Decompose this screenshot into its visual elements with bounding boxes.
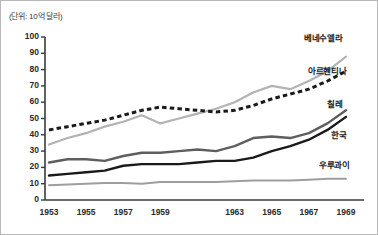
chart-container: (단위: 10억 달러) 베네수엘라아르헨티나칠레한국우루과이 01020304… xyxy=(0,0,378,235)
series-line-4 xyxy=(49,179,346,186)
x-tick-label: 1967 xyxy=(292,207,326,217)
x-tick-label: 1963 xyxy=(218,207,252,217)
y-tick-label: 10 xyxy=(13,178,39,188)
y-tick-label: 60 xyxy=(13,96,39,106)
y-tick-label: 90 xyxy=(13,47,39,57)
y-tick-label: 40 xyxy=(13,129,39,139)
y-tick-label: 30 xyxy=(13,145,39,155)
x-tick-label: 1969 xyxy=(329,207,363,217)
y-tick-label: 20 xyxy=(13,161,39,171)
y-tick-label: 50 xyxy=(13,113,39,123)
series-line-1 xyxy=(49,71,346,130)
y-tick-label: 70 xyxy=(13,80,39,90)
series-label-1: 아르헨티나 xyxy=(308,64,347,76)
series-line-2 xyxy=(49,110,346,162)
series-label-0: 베네수엘라 xyxy=(304,31,343,43)
x-tick-label: 1959 xyxy=(143,207,177,217)
series-label-2: 칠레 xyxy=(327,97,342,109)
y-tick-label: 100 xyxy=(13,31,39,41)
series-label-4: 우루과이 xyxy=(319,158,350,170)
x-tick-label: 1957 xyxy=(106,207,140,217)
x-tick-label: 1965 xyxy=(255,207,289,217)
x-tick-label: 1953 xyxy=(32,207,66,217)
x-tick-label: 1955 xyxy=(69,207,103,217)
y-tick-label: 80 xyxy=(13,64,39,74)
series-label-3: 한국 xyxy=(331,128,346,140)
y-tick-label: 0 xyxy=(13,194,39,204)
series-line-3 xyxy=(49,117,346,176)
series-line-0 xyxy=(49,57,346,145)
